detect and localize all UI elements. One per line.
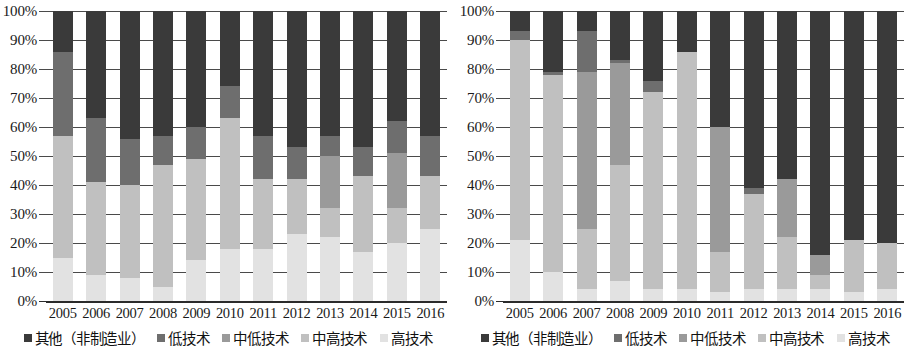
- y-axis-label: 60%: [467, 119, 494, 136]
- stacked-bar: [53, 11, 73, 301]
- x-axis-label: 2013: [773, 305, 801, 322]
- y-axis-label: 0%: [17, 293, 37, 310]
- bar-segment: [420, 11, 440, 136]
- legend-item[interactable]: 中高技术: [758, 327, 824, 347]
- legend-label: 低技术: [168, 327, 209, 347]
- bar-segment: [677, 11, 697, 52]
- square-swatch-icon: [301, 334, 309, 342]
- y-tick-mark: [39, 40, 46, 41]
- bar-segment: [643, 92, 663, 289]
- stacked-bar: [153, 11, 173, 301]
- legend-item[interactable]: 高技术: [380, 327, 432, 347]
- legend-item[interactable]: 其他（非制造业）: [481, 327, 602, 347]
- bar-segment: [577, 72, 597, 229]
- bar-segment: [220, 86, 240, 118]
- x-axis-label: 2006: [539, 305, 567, 322]
- stacked-bar: [510, 11, 530, 301]
- x-axis-labels-right: 2005200620072008200920102011201220132014…: [503, 305, 904, 325]
- bar-segment: [420, 136, 440, 177]
- square-swatch-icon: [24, 334, 32, 342]
- y-axis-label: 100%: [460, 3, 494, 20]
- y-tick-mark: [496, 127, 503, 128]
- bar-segment: [253, 11, 273, 136]
- bar-segment: [420, 229, 440, 302]
- bar-segment: [86, 118, 106, 182]
- bar-segment: [710, 252, 730, 293]
- legend-item[interactable]: 低技术: [157, 327, 209, 347]
- bar-segment: [543, 11, 563, 72]
- y-axis-label: 60%: [10, 119, 37, 136]
- y-tick-mark: [496, 69, 503, 70]
- bar-segment: [287, 11, 307, 147]
- legend-item[interactable]: 其他（非制造业）: [24, 327, 145, 347]
- square-swatch-icon: [679, 334, 687, 342]
- x-axis-label: 2009: [639, 305, 667, 322]
- bar-segment: [220, 118, 240, 249]
- bar-segment: [744, 188, 764, 194]
- bar-segment: [877, 289, 897, 301]
- bar-segment: [510, 40, 530, 240]
- legend-label: 低技术: [625, 327, 666, 347]
- legend-item[interactable]: 中高技术: [301, 327, 367, 347]
- bar-segment: [543, 72, 563, 75]
- x-axis-label: 2015: [383, 305, 411, 322]
- x-axis-label: 2013: [316, 305, 344, 322]
- bar-segment: [610, 63, 630, 165]
- y-axis-label: 50%: [467, 148, 494, 165]
- x-axis-label: 2015: [840, 305, 868, 322]
- y-axis-label: 90%: [10, 32, 37, 49]
- bar-segment: [844, 240, 864, 292]
- stacked-bar: [577, 11, 597, 301]
- bar-segment: [220, 11, 240, 86]
- y-axis-label: 20%: [10, 235, 37, 252]
- y-axis-label: 90%: [467, 32, 494, 49]
- square-swatch-icon: [614, 334, 622, 342]
- bar-segment: [610, 11, 630, 60]
- y-tick-mark: [496, 185, 503, 186]
- bar-segment: [320, 156, 340, 208]
- x-axis-label: 2008: [149, 305, 177, 322]
- x-axis-label: 2007: [573, 305, 601, 322]
- bar-segment: [643, 81, 663, 93]
- legend-label: 中高技术: [312, 327, 367, 347]
- bar-segment: [387, 11, 407, 121]
- stacked-bar: [744, 11, 764, 301]
- y-tick-mark: [496, 243, 503, 244]
- stacked-bar: [120, 11, 140, 301]
- bar-segment: [643, 11, 663, 81]
- x-axis-label: 2005: [506, 305, 534, 322]
- stacked-bar: [253, 11, 273, 301]
- bar-segment: [510, 240, 530, 301]
- y-tick-mark: [496, 40, 503, 41]
- y-tick-mark: [496, 301, 503, 302]
- bar-segment: [610, 165, 630, 281]
- bar-segment: [543, 75, 563, 272]
- y-tick-mark: [496, 272, 503, 273]
- bar-series-left: [46, 11, 447, 301]
- square-swatch-icon: [481, 334, 489, 342]
- x-axis-label: 2006: [82, 305, 110, 322]
- bar-segment: [510, 11, 530, 31]
- legend-item[interactable]: 高技术: [837, 327, 889, 347]
- y-axis-label: 30%: [467, 206, 494, 223]
- bar-segment: [353, 147, 373, 176]
- y-tick-mark: [39, 69, 46, 70]
- bar-segment: [810, 11, 830, 255]
- x-axis-label: 2005: [49, 305, 77, 322]
- y-axis-label: 100%: [3, 3, 37, 20]
- bar-segment: [577, 11, 597, 31]
- y-tick-mark: [39, 11, 46, 12]
- stacked-bar: [387, 11, 407, 301]
- bar-segment: [710, 11, 730, 127]
- legend-item[interactable]: 中低技术: [222, 327, 288, 347]
- legend-item[interactable]: 低技术: [614, 327, 666, 347]
- bar-segment: [53, 52, 73, 136]
- bar-segment: [577, 289, 597, 301]
- legend-item[interactable]: 中低技术: [679, 327, 745, 347]
- bar-segment: [287, 234, 307, 301]
- y-axis-label: 80%: [10, 61, 37, 78]
- bar-segment: [777, 289, 797, 301]
- x-axis-label: 2008: [606, 305, 634, 322]
- bar-segment: [153, 136, 173, 165]
- stacked-bar: [320, 11, 340, 301]
